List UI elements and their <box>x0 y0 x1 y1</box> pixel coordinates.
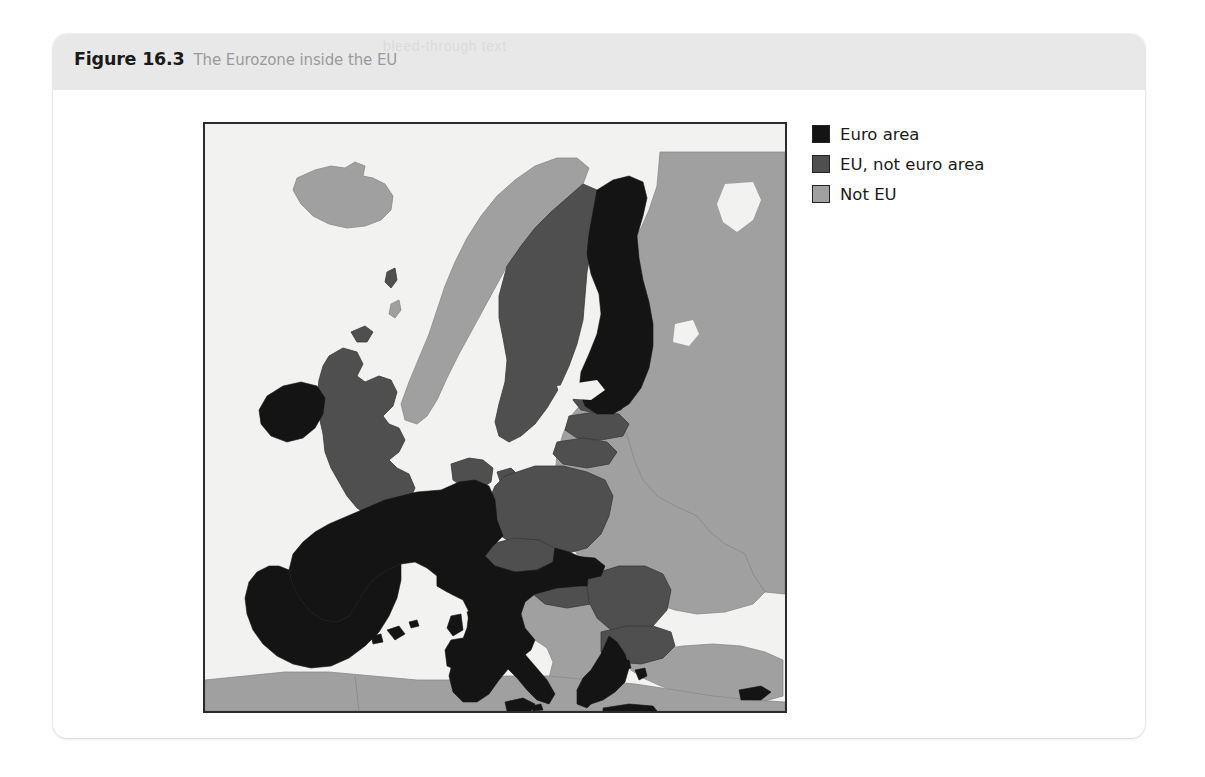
legend-item-euro-area[interactable]: Euro area <box>812 119 1062 149</box>
figure-caption: The Eurozone inside the EU <box>194 51 398 69</box>
figure-header-bar: bleed-through text Figure 16.3The Eurozo… <box>53 34 1145 90</box>
europe-map <box>205 124 785 711</box>
figure-title: Figure 16.3The Eurozone inside the EU <box>74 49 397 69</box>
legend-label-euro-area: Euro area <box>840 125 919 144</box>
legend-item-eu-not-euro-area[interactable]: EU, not euro area <box>812 149 1062 179</box>
map-frame <box>203 122 787 713</box>
legend-item-not-eu[interactable]: Not EU <box>812 179 1062 209</box>
legend-swatch-eu-not-euro-area <box>812 155 830 173</box>
figure-number: Figure 16.3 <box>74 49 185 69</box>
legend-label-eu-not-euro-area: EU, not euro area <box>840 155 984 174</box>
region-latvia <box>565 412 629 440</box>
bleed-through-text: bleed-through text <box>383 38 943 64</box>
legend-label-not-eu: Not EU <box>840 185 897 204</box>
region-balearics-2 <box>371 634 383 644</box>
legend-swatch-not-eu <box>812 185 830 203</box>
legend-swatch-euro-area <box>812 125 830 143</box>
region-lithuania <box>553 438 617 468</box>
map-legend: Euro area EU, not euro area Not EU <box>812 119 1062 209</box>
figure-card: bleed-through text Figure 16.3The Eurozo… <box>53 34 1145 738</box>
